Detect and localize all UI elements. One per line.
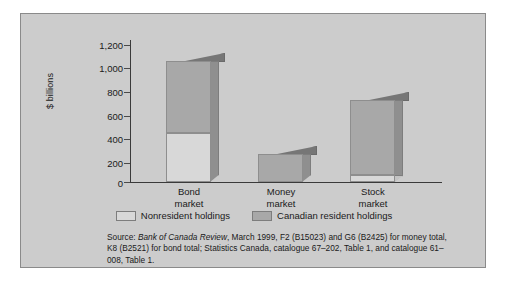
chart-legend: Nonresident holdings Canadian resident h… [21,210,487,221]
source-note: Source: Bank of Canada Review, March 199… [107,232,453,266]
x-axis-label-stock-market: Stock market [325,186,421,209]
legend-swatch-nonresident [116,211,136,221]
y-tick-label-0: 0 [83,179,123,189]
source-publication-title: Bank of Canada Review [138,232,227,242]
source-prefix: Source: [107,232,138,242]
bar-money-market-side [302,154,311,182]
legend-item-nonresident-holdings[interactable]: Nonresident holdings [116,210,230,221]
x-axis-label-bond-market: Bond market [141,186,237,209]
x-axis-label-money-line2: market [266,198,295,209]
bar-stock-market-side [394,100,403,182]
x-axis-label-money-market: Money market [233,186,329,209]
legend-item-canadian-resident-holdings[interactable]: Canadian resident holdings [252,210,392,221]
bar-money-market-segment-canadian-resident [258,154,303,182]
bar-bond-market-side [210,61,219,182]
plot-area: $ billions 1,200 1,000 800 600 400 200 0 [21,14,487,189]
y-tick-label-600: 600 [83,112,123,122]
bar-stock-market-side-nonresident [394,175,403,182]
y-axis-title: $ billions [45,46,55,136]
y-axis-tick-labels: 1,200 1,000 800 600 400 200 0 [68,14,123,189]
bar-bond-market-segment-nonresident [166,133,211,182]
bar-stock-market-segment-canadian-resident [350,100,395,175]
bar-bond-market-segment-canadian-resident [166,61,211,133]
x-axis-line [130,182,442,183]
x-axis-label-stock-line1: Stock [361,186,385,197]
x-axis-label-bond-line1: Bond [178,186,200,197]
figure-panel: $ billions 1,200 1,000 800 600 400 200 0 [20,13,486,268]
legend-swatch-canadian-resident [252,211,272,221]
x-axis-label-money-line1: Money [267,186,296,197]
legend-label-canadian-resident: Canadian resident holdings [277,210,392,221]
y-tick-label-1000: 1,000 [83,64,123,74]
y-tick-label-400: 400 [83,135,123,145]
bar-stock-market[interactable] [350,100,402,182]
bar-bond-market[interactable] [166,61,218,182]
legend-label-nonresident: Nonresident holdings [141,210,230,221]
x-axis-label-stock-line2: market [358,198,387,209]
y-axis-line [130,40,131,183]
bar-money-market[interactable] [258,154,310,182]
bar-stock-market-segment-nonresident [350,175,395,182]
y-tick-label-200: 200 [83,159,123,169]
y-tick-label-1200: 1,200 [83,41,123,51]
x-axis-label-bond-line2: market [174,198,203,209]
y-tick-label-800: 800 [83,88,123,98]
